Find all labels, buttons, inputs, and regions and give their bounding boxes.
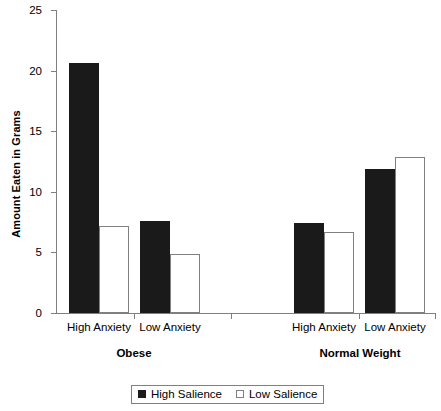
- category-label-normal-weight-low-anxiety: Low Anxiety: [364, 321, 425, 333]
- category-label-obese-high-anxiety: High Anxiety: [67, 321, 131, 333]
- y-tick-label-15: 15: [29, 125, 42, 137]
- category-label-obese-low-anxiety: Low Anxiety: [139, 321, 200, 333]
- bar-chart: Amount Eaten in Grams 25 20 15 10 5 0: [0, 0, 441, 411]
- y-tick-5: 5: [51, 252, 56, 253]
- y-tick-15: 15: [51, 131, 56, 132]
- y-tick-10: 10: [51, 192, 56, 193]
- y-tick-25: 25: [51, 10, 56, 11]
- bar-normal-weight-low-anxiety-high-salience: [365, 169, 395, 313]
- axis-separator-3: [359, 313, 360, 319]
- group-label-obese: Obese: [116, 347, 151, 359]
- x-axis-line: [56, 313, 436, 314]
- legend-swatch-filled-icon: [138, 390, 146, 398]
- y-tick-label-20: 20: [29, 65, 42, 77]
- bar-normal-weight-low-anxiety-low-salience: [395, 157, 425, 313]
- legend-item-low-salience: Low Salience: [236, 388, 317, 400]
- bar-obese-high-anxiety-high-salience: [69, 63, 99, 313]
- bar-normal-weight-high-anxiety-high-salience: [294, 223, 324, 313]
- legend-label-high-salience: High Salience: [151, 388, 222, 400]
- y-axis-line: [56, 10, 57, 313]
- bar-obese-high-anxiety-low-salience: [99, 226, 129, 313]
- bar-obese-low-anxiety-low-salience: [170, 254, 200, 313]
- legend-swatch-open-icon: [236, 390, 244, 398]
- bar-obese-low-anxiety-high-salience: [140, 221, 170, 313]
- axis-separator-4: [435, 313, 436, 319]
- axis-separator-2: [231, 313, 232, 319]
- y-tick-label-25: 25: [29, 4, 42, 16]
- y-tick-0: 0: [51, 313, 56, 314]
- legend-label-low-salience: Low Salience: [249, 388, 317, 400]
- legend-item-high-salience: High Salience: [138, 388, 222, 400]
- y-tick-20: 20: [51, 71, 56, 72]
- y-tick-label-5: 5: [36, 246, 42, 258]
- y-tick-label-0: 0: [36, 307, 42, 319]
- bar-normal-weight-high-anxiety-low-salience: [324, 232, 354, 313]
- group-label-normal-weight: Normal Weight: [320, 347, 401, 359]
- axis-separator-1: [134, 313, 135, 319]
- y-axis-title: Amount Eaten in Grams: [10, 74, 22, 274]
- y-tick-label-10: 10: [29, 186, 42, 198]
- plot-area: 25 20 15 10 5 0: [56, 10, 436, 313]
- chart-legend: High Salience Low Salience: [131, 385, 324, 404]
- category-label-normal-weight-high-anxiety: High Anxiety: [292, 321, 356, 333]
